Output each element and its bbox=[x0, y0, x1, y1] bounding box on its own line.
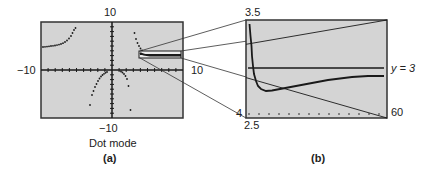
panel-b-x-max-label: 60 bbox=[391, 106, 403, 118]
panel-b-x-min-label: 4 bbox=[236, 107, 242, 119]
panel-a-y-min-label: −10 bbox=[99, 122, 118, 134]
panel-a-x-min-label: −10 bbox=[17, 64, 36, 76]
panel-b-screen bbox=[246, 20, 387, 118]
panel-b-label: (b) bbox=[311, 152, 325, 164]
asymptote-label: y = 3 bbox=[391, 62, 415, 74]
panel-a-x-max-label: 10 bbox=[191, 64, 203, 76]
panel-b-y-min-label: 2.5 bbox=[244, 119, 259, 131]
panel-a-label: (a) bbox=[103, 152, 116, 164]
panel-a-caption: Dot mode bbox=[89, 137, 137, 149]
figure-canvas bbox=[0, 0, 427, 173]
panel-b-y-max-label: 3.5 bbox=[245, 6, 260, 18]
panel-a-y-max-label: 10 bbox=[104, 6, 116, 18]
